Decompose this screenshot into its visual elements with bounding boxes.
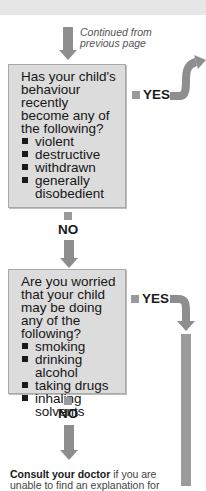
no-arrow-2-head-icon: [60, 450, 78, 460]
no-label-2: NO: [58, 406, 78, 421]
consult-doctor-note: Consult your doctor if you are unable to…: [10, 469, 180, 491]
yes-path-bar: [181, 334, 191, 486]
no-marker-2: [64, 397, 72, 405]
no-arrow-2-shaft: [64, 425, 74, 451]
